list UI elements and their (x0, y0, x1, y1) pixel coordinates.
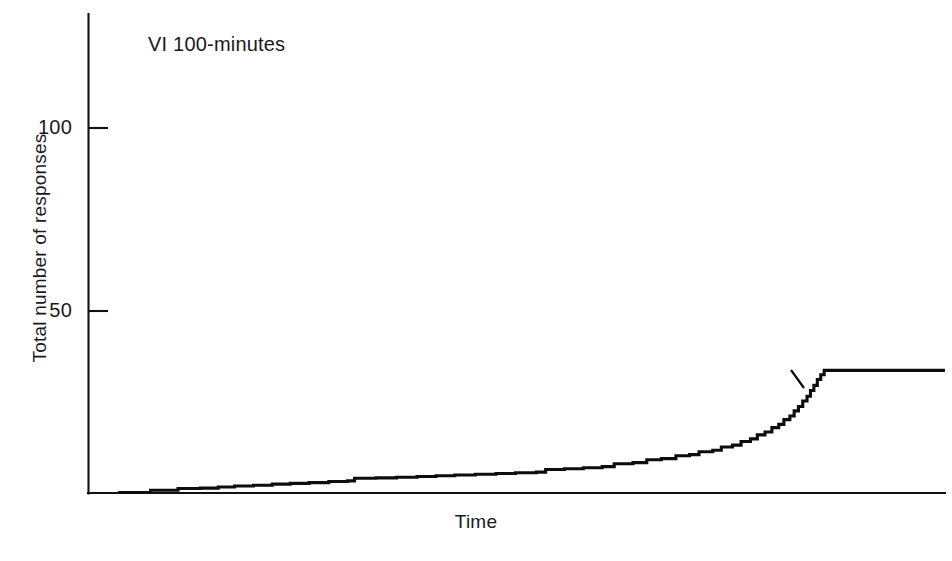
cumulative-record-figure: 100 50 VI 100-minutes Time Total number … (0, 0, 952, 561)
y-axis-title-wrapper: Total number of responses (29, 0, 59, 498)
x-axis-title: Time (0, 511, 952, 533)
reinforcement-pip-icon (791, 370, 804, 388)
plot-area (0, 0, 952, 561)
cumulative-response-curve (118, 370, 945, 492)
schedule-annotation: VI 100-minutes (148, 33, 285, 56)
y-axis-title: Total number of responses (29, 134, 50, 363)
